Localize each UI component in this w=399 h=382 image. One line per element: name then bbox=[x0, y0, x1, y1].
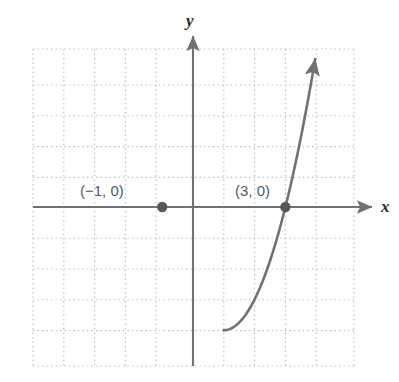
x-axis-label: x bbox=[381, 198, 390, 215]
graph-figure: y x (−1, 0) (3, 0) bbox=[0, 0, 399, 382]
root-label-right: (3, 0) bbox=[235, 183, 270, 198]
root-point-right bbox=[280, 202, 290, 212]
coordinate-plane-svg bbox=[0, 0, 399, 382]
y-axis-label: y bbox=[186, 12, 194, 29]
root-label-left: (−1, 0) bbox=[80, 183, 124, 198]
root-point-left bbox=[157, 202, 167, 212]
